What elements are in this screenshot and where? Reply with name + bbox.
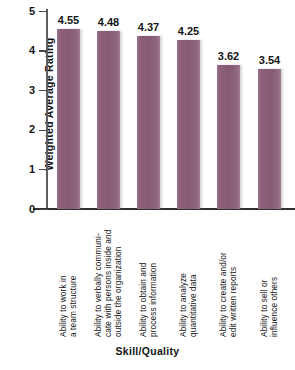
y-tick-label-3: 3 [20,85,35,96]
x-category-line: influence others [270,277,280,337]
y-tick-label-1: 1 [20,164,35,175]
x-category-line: quantitative data [189,273,199,337]
x-category-label-0: Ability to work ina team structure [59,275,79,337]
bar-2 [137,36,160,209]
y-axis-title: Weighted Average Rating [43,0,55,209]
x-category-line: outside the organization [114,230,124,338]
x-category-label-4: Ability to create and/oredit written rep… [219,252,239,337]
x-category-label-3: Ability to analyzequantitative data [179,273,199,337]
bar-value-label-1: 4.48 [89,17,129,28]
bar-value-label-4: 3.62 [209,51,249,62]
y-tick-label-5: 5 [20,6,35,17]
bar-value-label-3: 4.25 [169,26,209,37]
x-category-label-1: Ability to verbally communi-cate with pe… [94,230,123,338]
bar-value-label-2: 4.37 [129,22,169,33]
y-tick-label-0: 0 [20,204,35,215]
y-tick-mark [39,130,47,131]
x-category-line: process information [149,262,159,337]
x-category-line: edit written reports [229,252,239,337]
bar-0 [57,29,80,209]
y-tick-mark [39,50,47,51]
x-category-label-2: Ability to obtain andprocess information [139,262,159,337]
bar-4 [217,65,240,208]
y-tick-mark [39,90,47,91]
y-axis-line [46,9,48,209]
x-axis-title: Skill/Quality [0,345,295,357]
y-tick-mark [39,169,47,170]
bar-1 [97,31,120,208]
y-tick-label-4: 4 [20,45,35,56]
y-tick-mark [39,11,47,12]
x-category-label-5: Ability to sell orinfluence others [260,277,280,337]
y-tick-label-2: 2 [20,124,35,135]
bar-chart: Weighted Average Rating 0 1 2 3 4 5 4.55… [0,0,295,370]
x-category-line: a team structure [69,275,79,337]
bar-3 [177,40,200,208]
bar-value-label-5: 3.54 [250,55,290,66]
bar-value-label-0: 4.55 [49,15,89,26]
y-tick-mark [39,209,47,210]
bar-5 [258,69,281,209]
